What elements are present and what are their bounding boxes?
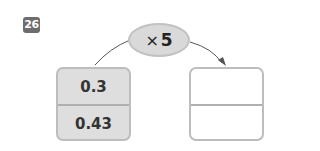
left-connector-line	[95, 40, 130, 65]
right-arrow	[190, 42, 222, 63]
answer-cell-top[interactable]	[191, 69, 262, 106]
input-cell-top: 0.3	[58, 69, 129, 106]
operator-oval: × 5	[128, 23, 190, 57]
answer-cell-bottom[interactable]	[191, 106, 262, 141]
multiply-symbol: ×	[145, 31, 158, 50]
input-box: 0.3 0.43	[56, 67, 131, 141]
multiplier-value: 5	[161, 30, 173, 50]
arrowhead-icon	[218, 57, 226, 66]
input-cell-bottom: 0.43	[58, 106, 129, 141]
answer-box	[189, 67, 264, 141]
